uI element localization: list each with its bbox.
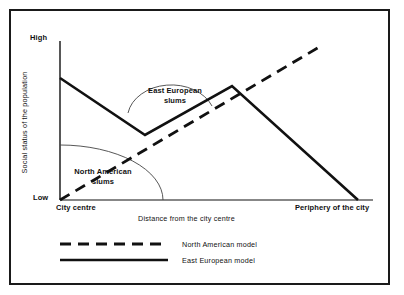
east-european-slums-annotation: East European slums xyxy=(140,86,210,105)
x-axis-title: Distance from the city centre xyxy=(138,214,235,223)
x-axis-periphery-label: Periphery of the city xyxy=(295,203,369,212)
y-axis-low-label: Low xyxy=(33,193,48,202)
chart-figure: High Low Social status of the population… xyxy=(0,0,404,295)
x-axis-city-centre-label: City centre xyxy=(56,203,96,212)
y-axis-title: Social status of the population xyxy=(20,68,29,178)
north-american-slums-annotation: North American slums xyxy=(64,167,142,186)
legend-label-east-european-model: East European model xyxy=(182,256,255,265)
chart-plot-area xyxy=(0,0,404,295)
y-axis-high-label: High xyxy=(30,33,47,42)
legend-label-north-american-model: North American model xyxy=(182,240,257,249)
